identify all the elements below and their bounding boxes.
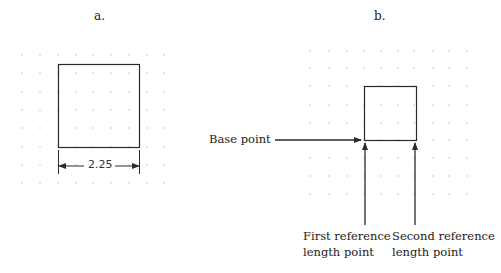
- first-reference-label: First reference length point: [303, 228, 391, 260]
- panel-label-b: b.: [374, 9, 386, 23]
- second-reference-line2: length point: [392, 244, 495, 260]
- first-reference-line2: length point: [303, 244, 391, 260]
- second-reference-label: Second reference length point: [392, 228, 495, 260]
- square-a: [59, 65, 140, 148]
- second-reference-line1: Second reference: [392, 228, 495, 244]
- grid-dots-b: [309, 50, 467, 194]
- square-b: [365, 87, 417, 141]
- panel-label-a: a.: [94, 9, 105, 23]
- dimension-value: 2.25: [86, 158, 115, 171]
- diagram-canvas: a. b. 2.25 Base point First reference le…: [0, 0, 501, 273]
- base-point-label: Base point: [209, 131, 271, 147]
- first-reference-line1: First reference: [303, 228, 391, 244]
